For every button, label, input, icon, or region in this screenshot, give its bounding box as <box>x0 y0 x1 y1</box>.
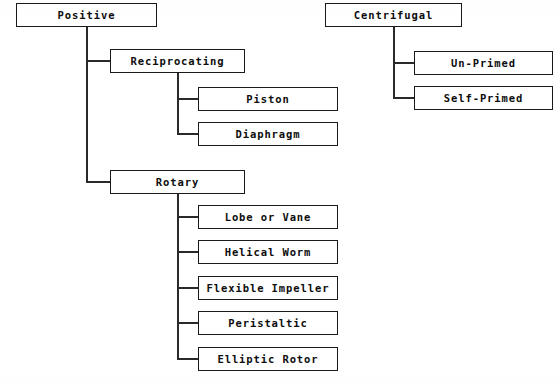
connector-stub-un-primed <box>393 62 415 64</box>
connector-trunk-reciprocating <box>177 73 179 134</box>
connector-trunk-rotary <box>177 194 179 359</box>
node-peristaltic[interactable]: Peristaltic <box>198 311 338 335</box>
node-flexible-impeller[interactable]: Flexible Impeller <box>198 276 338 300</box>
pump-classification-diagram: PositiveReciprocatingPistonDiaphragmRota… <box>0 0 560 386</box>
node-self-primed[interactable]: Self-Primed <box>414 86 553 110</box>
node-label-positive: Positive <box>58 10 116 21</box>
connector-stub-lobe-or-vane <box>177 216 199 218</box>
node-label-self-primed: Self-Primed <box>444 93 523 104</box>
node-piston[interactable]: Piston <box>198 87 338 111</box>
connector-stub-rotary <box>86 181 111 183</box>
node-reciprocating[interactable]: Reciprocating <box>110 49 245 73</box>
node-rotary[interactable]: Rotary <box>110 170 245 194</box>
connector-stub-helical-worm <box>177 251 199 253</box>
node-label-rotary: Rotary <box>156 177 199 188</box>
node-lobe-or-vane[interactable]: Lobe or Vane <box>198 205 338 229</box>
connector-stub-flexible <box>177 287 199 289</box>
node-label-reciprocating: Reciprocating <box>131 56 225 67</box>
node-helical-worm[interactable]: Helical Worm <box>198 240 338 264</box>
node-un-primed[interactable]: Un-Primed <box>414 51 553 75</box>
node-elliptic-rotor[interactable]: Elliptic Rotor <box>198 347 338 371</box>
node-label-lobe-or-vane: Lobe or Vane <box>225 212 312 223</box>
node-label-helical-worm: Helical Worm <box>225 247 312 258</box>
node-label-diaphragm: Diaphragm <box>236 129 301 140</box>
connector-trunk-positive <box>86 27 88 182</box>
connector-stub-reciprocating <box>86 60 111 62</box>
node-positive[interactable]: Positive <box>16 3 157 27</box>
connector-stub-elliptic <box>177 358 199 360</box>
node-label-elliptic-rotor: Elliptic Rotor <box>217 354 318 365</box>
node-label-peristaltic: Peristaltic <box>228 318 307 329</box>
node-label-flexible-impeller: Flexible Impeller <box>207 283 330 294</box>
node-diaphragm[interactable]: Diaphragm <box>198 122 338 146</box>
connector-stub-self-primed <box>393 97 415 99</box>
node-label-un-primed: Un-Primed <box>451 58 516 69</box>
connector-stub-diaphragm <box>177 133 199 135</box>
node-label-piston: Piston <box>246 94 289 105</box>
node-label-centrifugal: Centrifugal <box>354 10 433 21</box>
connector-stub-piston <box>177 98 199 100</box>
connector-stub-peristaltic <box>177 322 199 324</box>
node-centrifugal[interactable]: Centrifugal <box>325 3 462 27</box>
